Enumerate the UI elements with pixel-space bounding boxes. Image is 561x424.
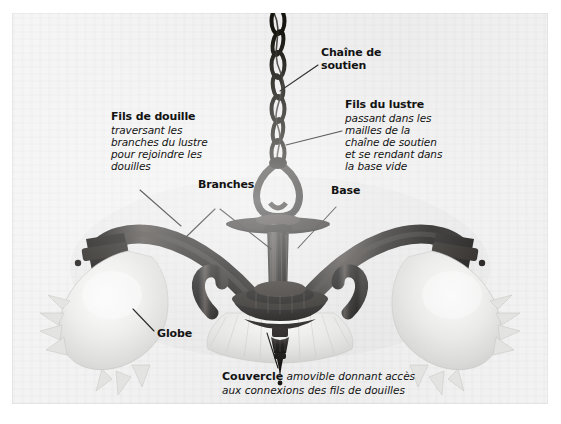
couvercle-line1-rest: amovible donnant accès [283,370,415,382]
fils-douille-line3: pour rejoindre les [111,148,208,160]
branches-heading: Branches [198,179,254,192]
leader-globe [133,309,154,331]
couvercle-line2: aux connexions des fils de douilles [222,384,415,396]
fils-douille-line2: branches du lustre [111,136,208,148]
fils-lustre-heading: Fils du lustre [345,99,442,112]
leader-branches-b [220,209,271,249]
leader-couvercle [267,333,278,368]
leader-base [298,207,336,248]
fils-lustre-line3: chaîne de soutien [345,136,442,148]
annotation-couvercle: Couvercle amovible donnant accès aux con… [222,370,415,396]
annotation-fils-de-douille: Fils de douille traversant les branches … [111,111,208,172]
annotation-fils-du-lustre: Fils du lustre passant dans les mailles … [345,99,442,173]
fils-douille-line1: traversant les [111,124,208,136]
annotation-base: Base [331,185,360,198]
fils-lustre-line2: mailles de la [345,124,442,136]
leader-lines [12,13,548,404]
base-heading: Base [331,185,360,198]
annotation-branches: Branches [198,179,254,192]
annotation-globe: Globe [157,328,192,341]
fils-lustre-line1: passant dans les [345,112,442,124]
annotation-chaine-de-soutien: Chaîne de soutien [321,47,381,73]
leader-chaine [280,65,318,91]
fils-douille-line4: douilles [111,160,208,172]
chaine-heading-line1: Chaîne de [321,47,381,60]
fils-douille-heading: Fils de douille [111,111,208,124]
leader-branches-a [185,209,215,238]
fils-lustre-line5: la base vide [345,160,442,172]
globe-heading: Globe [157,328,192,341]
fils-lustre-line4: et se rendant dans [345,148,442,160]
chaine-heading-line2: soutien [321,60,381,73]
figure-canvas: Chaîne de soutien Fils du lustre passant… [0,0,561,424]
chandelier-photograph [12,13,548,404]
leader-fils-lustre [286,131,342,145]
leader-fils-douille [140,190,181,226]
couvercle-heading: Couvercle [222,370,283,383]
